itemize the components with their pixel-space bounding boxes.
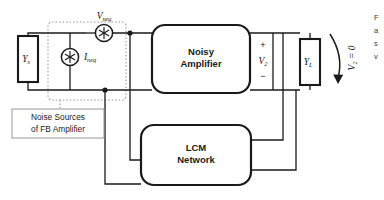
circuit-diagram: Noisy Amplifier LCM Network Ys YL Vneq xyxy=(0,0,384,200)
noisy-amplifier-label-line2: Amplifier xyxy=(180,58,221,69)
noise-voltage-label: Vneq xyxy=(97,11,112,22)
noise-current-label: Ineq xyxy=(83,52,96,63)
wire-fb-return-bottom xyxy=(251,90,296,170)
v2-zero-annotation: V₂ = 0 xyxy=(347,45,357,70)
wire-ys-bottom xyxy=(28,82,105,90)
lcm-network-label-line2: Network xyxy=(177,154,215,165)
curved-arrow-head-icon xyxy=(333,75,343,84)
noise-sources-caption-line1: Noise Sources xyxy=(31,112,85,122)
output-minus-sign: − xyxy=(260,71,265,81)
noisy-amplifier-label-line1: Noisy xyxy=(188,46,215,57)
curved-arrow-icon xyxy=(330,34,340,78)
side-caption-line3: s xyxy=(374,39,378,48)
noise-sources-caption-line2: of FB Amplifier xyxy=(31,124,85,134)
lcm-network-label-line1: LCM xyxy=(186,142,207,153)
output-voltage-label: V2 xyxy=(259,56,268,67)
wire-fb-tap-top xyxy=(130,33,141,160)
output-plus-sign: + xyxy=(260,40,265,50)
wire-fb-return-top xyxy=(251,33,283,140)
figure-root: Noisy Amplifier LCM Network Ys YL Vneq xyxy=(0,0,384,200)
side-caption-line2: a xyxy=(374,26,379,35)
side-caption-line1: F xyxy=(374,13,379,22)
side-caption-line4: v xyxy=(374,52,378,61)
wire-fb-tap-bottom xyxy=(105,90,141,184)
